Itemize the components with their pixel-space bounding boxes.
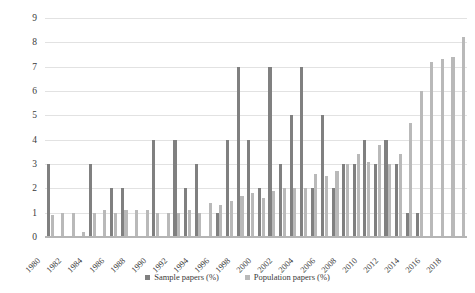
y-axis-tick-label: 9 bbox=[32, 13, 37, 23]
bar[interactable] bbox=[420, 91, 423, 237]
chart-container: No. Papers (%) 0123456789 19801982198419… bbox=[0, 0, 475, 293]
bar-group bbox=[414, 18, 425, 237]
bar[interactable] bbox=[237, 67, 240, 237]
bar[interactable] bbox=[251, 193, 254, 237]
bar[interactable] bbox=[357, 154, 360, 237]
bar[interactable] bbox=[290, 115, 293, 237]
bar-group bbox=[267, 18, 278, 237]
bar[interactable] bbox=[378, 145, 381, 237]
bar[interactable] bbox=[258, 188, 261, 237]
bar-group bbox=[404, 18, 415, 237]
bar[interactable] bbox=[188, 210, 191, 237]
bar[interactable] bbox=[451, 57, 454, 237]
bar[interactable] bbox=[384, 140, 387, 237]
bar[interactable] bbox=[93, 213, 96, 237]
bar-group bbox=[330, 18, 341, 237]
bar[interactable] bbox=[89, 164, 92, 237]
bar-group bbox=[277, 18, 288, 237]
bar[interactable] bbox=[177, 213, 180, 237]
bar[interactable] bbox=[195, 164, 198, 237]
bar[interactable] bbox=[262, 198, 265, 237]
bar[interactable] bbox=[342, 164, 345, 237]
bar[interactable] bbox=[399, 154, 402, 237]
bar[interactable] bbox=[216, 213, 219, 237]
bar[interactable] bbox=[311, 188, 314, 237]
bar[interactable] bbox=[268, 67, 271, 237]
bar[interactable] bbox=[51, 215, 54, 237]
bar[interactable] bbox=[272, 191, 275, 237]
bar[interactable] bbox=[146, 210, 149, 237]
bar[interactable] bbox=[406, 213, 409, 237]
bar[interactable] bbox=[279, 164, 282, 237]
bar-group bbox=[425, 18, 436, 237]
bar-group bbox=[151, 18, 162, 237]
bar[interactable] bbox=[167, 213, 170, 237]
bar[interactable] bbox=[300, 67, 303, 237]
bar[interactable] bbox=[335, 171, 338, 237]
bar[interactable] bbox=[247, 140, 250, 237]
bar-group bbox=[129, 18, 140, 237]
bar-group bbox=[383, 18, 394, 237]
bar[interactable] bbox=[395, 164, 398, 237]
bar[interactable] bbox=[110, 188, 113, 237]
bar-group bbox=[172, 18, 183, 237]
bar[interactable] bbox=[283, 188, 286, 237]
bar[interactable] bbox=[353, 164, 356, 237]
y-axis-tick-label: 8 bbox=[32, 37, 37, 47]
bar[interactable] bbox=[240, 196, 243, 237]
bar-group bbox=[161, 18, 172, 237]
bar[interactable] bbox=[367, 162, 370, 237]
bar-group bbox=[203, 18, 214, 237]
bar-group bbox=[372, 18, 383, 237]
y-axis-tick-label: 2 bbox=[32, 183, 37, 193]
bar[interactable] bbox=[462, 37, 465, 237]
bar[interactable] bbox=[230, 201, 233, 238]
bars-layer bbox=[45, 18, 467, 237]
bar[interactable] bbox=[409, 123, 412, 237]
bar[interactable] bbox=[124, 210, 127, 237]
legend-label: Sample papers (%) bbox=[154, 272, 219, 282]
bar[interactable] bbox=[293, 188, 296, 237]
bar-group bbox=[340, 18, 351, 237]
bar[interactable] bbox=[332, 188, 335, 237]
bar[interactable] bbox=[72, 213, 75, 237]
bar[interactable] bbox=[121, 188, 124, 237]
bar[interactable] bbox=[173, 140, 176, 237]
bar[interactable] bbox=[388, 164, 391, 237]
y-axis-tick-label: 3 bbox=[32, 159, 37, 169]
bar-group bbox=[214, 18, 225, 237]
bar-group bbox=[140, 18, 151, 237]
bar-group bbox=[182, 18, 193, 237]
bar[interactable] bbox=[219, 205, 222, 237]
bar-group bbox=[351, 18, 362, 237]
bar[interactable] bbox=[184, 188, 187, 237]
bar-group bbox=[87, 18, 98, 237]
bar[interactable] bbox=[416, 213, 419, 237]
bar[interactable] bbox=[321, 115, 324, 237]
bar-group bbox=[235, 18, 246, 237]
y-axis-tick-label: 7 bbox=[32, 62, 37, 72]
bar[interactable] bbox=[152, 140, 155, 237]
bar[interactable] bbox=[363, 140, 366, 237]
bar[interactable] bbox=[325, 176, 328, 237]
bar[interactable] bbox=[135, 210, 138, 237]
bar[interactable] bbox=[114, 213, 117, 237]
legend-item[interactable]: Sample papers (%) bbox=[145, 272, 219, 282]
bar[interactable] bbox=[314, 174, 317, 237]
bar-group bbox=[108, 18, 119, 237]
bar[interactable] bbox=[156, 213, 159, 237]
bar-group bbox=[288, 18, 299, 237]
bar[interactable] bbox=[304, 188, 307, 237]
bar[interactable] bbox=[103, 210, 106, 237]
bar[interactable] bbox=[61, 213, 64, 237]
bar[interactable] bbox=[47, 164, 50, 237]
legend-item[interactable]: Population papers (%) bbox=[245, 272, 330, 282]
bar[interactable] bbox=[441, 59, 444, 237]
bar[interactable] bbox=[198, 213, 201, 237]
bar[interactable] bbox=[346, 164, 349, 237]
bar[interactable] bbox=[430, 62, 433, 237]
bar[interactable] bbox=[226, 140, 229, 237]
chart-legend: Sample papers (%)Population papers (%) bbox=[0, 272, 475, 282]
bar[interactable] bbox=[209, 203, 212, 237]
bar[interactable] bbox=[374, 164, 377, 237]
